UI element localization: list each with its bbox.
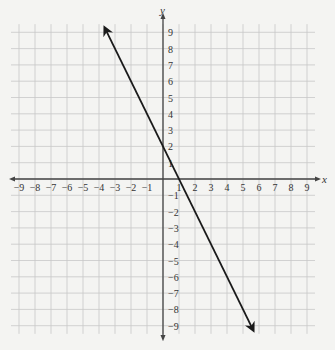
svg-text:−3: −3	[110, 182, 121, 193]
svg-text:4: 4	[225, 182, 230, 193]
svg-text:4: 4	[168, 109, 173, 120]
svg-text:−8: −8	[30, 182, 41, 193]
svg-text:−1: −1	[142, 182, 153, 193]
svg-text:3: 3	[168, 125, 173, 136]
svg-text:6: 6	[257, 182, 262, 193]
svg-text:5: 5	[241, 182, 246, 193]
svg-text:9: 9	[305, 182, 310, 193]
svg-text:−5: −5	[168, 256, 179, 267]
svg-text:−3: −3	[168, 223, 179, 234]
svg-text:7: 7	[168, 60, 173, 71]
svg-text:−1: −1	[168, 190, 179, 201]
svg-text:−6: −6	[62, 182, 73, 193]
coordinate-plane-chart: −9−8−7−6−5−4−3−2−1123456789987654321−1−2…	[0, 0, 335, 350]
svg-text:−6: −6	[168, 272, 179, 283]
svg-text:3: 3	[209, 182, 214, 193]
svg-text:7: 7	[273, 182, 278, 193]
svg-text:−5: −5	[78, 182, 89, 193]
x-axis-label: x	[321, 173, 327, 185]
svg-text:8: 8	[168, 44, 173, 55]
svg-text:−2: −2	[168, 207, 179, 218]
svg-text:−4: −4	[168, 239, 179, 250]
svg-text:9: 9	[168, 27, 173, 38]
y-axis-label: y	[159, 4, 165, 16]
svg-text:−7: −7	[168, 288, 179, 299]
axes	[12, 16, 318, 338]
svg-text:6: 6	[168, 76, 173, 87]
svg-text:−9: −9	[168, 321, 179, 332]
svg-text:2: 2	[193, 182, 198, 193]
svg-text:−2: −2	[126, 182, 137, 193]
svg-text:2: 2	[168, 141, 173, 152]
svg-text:−9: −9	[14, 182, 25, 193]
svg-text:5: 5	[168, 93, 173, 104]
svg-text:−7: −7	[46, 182, 57, 193]
svg-text:−4: −4	[94, 182, 105, 193]
svg-text:−8: −8	[168, 304, 179, 315]
svg-text:8: 8	[289, 182, 294, 193]
